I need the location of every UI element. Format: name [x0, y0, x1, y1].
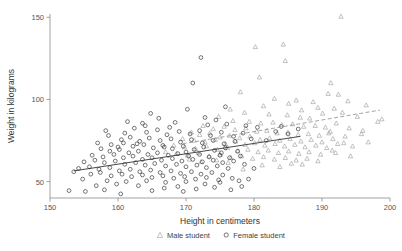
data-point-male: [329, 81, 333, 85]
data-point-female: [90, 153, 94, 157]
data-point-male: [260, 163, 264, 167]
data-point-female: [108, 149, 112, 153]
data-point-male: [327, 131, 331, 135]
data-point-female: [82, 160, 86, 164]
data-point-male: [336, 92, 340, 96]
data-point-female: [157, 116, 161, 120]
data-point-female: [158, 139, 162, 143]
data-point-male: [242, 110, 246, 114]
y-tick-label: 50: [36, 178, 44, 187]
data-point-female: [122, 156, 126, 160]
data-point-male: [257, 75, 261, 79]
data-point-male: [227, 133, 231, 137]
data-point-female: [137, 149, 141, 153]
data-point-female: [109, 143, 113, 147]
data-point-female: [203, 182, 207, 186]
data-point-female: [221, 173, 225, 177]
data-point-female: [221, 161, 225, 165]
data-point-female: [103, 161, 107, 165]
data-point-male: [216, 114, 220, 118]
data-point-female: [169, 137, 173, 141]
data-point-female: [296, 127, 300, 131]
data-point-male: [282, 144, 286, 148]
data-point-male: [296, 132, 300, 136]
x-tick-label: 150: [44, 203, 57, 212]
data-point-male: [305, 156, 309, 160]
data-point-female: [122, 141, 126, 145]
data-point-male: [318, 152, 322, 156]
data-point-female: [168, 125, 172, 129]
data-point-female: [138, 170, 142, 174]
data-point-female: [256, 125, 260, 129]
data-point-female: [199, 172, 203, 176]
data-point-male: [238, 136, 242, 140]
data-point-female: [94, 184, 98, 188]
data-point-male: [259, 121, 263, 125]
data-point-male: [283, 59, 287, 63]
data-point-male: [231, 118, 235, 122]
data-point-female: [153, 162, 157, 166]
data-point-male: [226, 160, 230, 164]
data-point-male: [339, 14, 343, 18]
y-tick-label: 150: [31, 13, 44, 22]
data-point-female: [141, 173, 145, 177]
data-point-female: [191, 81, 195, 85]
data-point-male: [233, 128, 237, 132]
data-point-female: [206, 123, 210, 127]
data-point-female: [67, 189, 71, 193]
data-point-male: [311, 100, 315, 104]
data-point-female: [135, 142, 139, 146]
tick-labels-group: 15016017018019020050100150: [31, 13, 396, 212]
data-point-male: [347, 126, 351, 130]
data-point-female: [132, 126, 136, 130]
data-point-female: [161, 174, 165, 178]
data-point-female: [162, 186, 166, 190]
data-point-male: [364, 103, 368, 107]
data-point-female: [225, 122, 229, 126]
data-point-male: [266, 148, 270, 152]
data-point-female: [105, 179, 109, 183]
data-point-male: [317, 133, 321, 137]
data-point-female: [143, 163, 147, 167]
data-point-male: [314, 143, 318, 147]
data-point-male: [309, 137, 313, 141]
data-point-male: [273, 141, 277, 145]
data-point-female: [164, 164, 168, 168]
chart-svg: 15016017018019020050100150 Male studentF…: [0, 0, 402, 251]
data-point-female: [215, 164, 219, 168]
data-point-female: [128, 135, 132, 139]
data-point-female: [219, 130, 223, 134]
data-point-male: [299, 139, 303, 143]
data-point-male: [228, 107, 232, 111]
data-point-male: [241, 167, 245, 171]
data-point-male: [222, 124, 226, 128]
data-point-female: [104, 129, 108, 133]
data-point-female: [175, 162, 179, 166]
data-point-male: [297, 151, 301, 155]
data-point-male: [293, 142, 297, 146]
data-point-female: [209, 134, 213, 138]
data-point-female: [205, 176, 209, 180]
x-tick-label: 200: [384, 203, 397, 212]
data-point-male: [326, 91, 330, 95]
data-point-female: [190, 170, 194, 174]
y-axis-label: Weight in kilograms: [6, 69, 16, 143]
data-point-female: [115, 182, 119, 186]
data-point-male: [286, 149, 290, 153]
data-point-male: [271, 120, 275, 124]
data-point-female: [249, 137, 253, 141]
data-point-male: [250, 156, 254, 160]
legend-marker-female: [224, 233, 228, 237]
data-point-male: [342, 141, 346, 145]
data-point-female: [230, 176, 234, 180]
data-point-male: [253, 45, 257, 49]
data-point-female: [103, 188, 107, 192]
data-point-female: [131, 144, 135, 148]
data-point-male: [256, 150, 260, 154]
data-point-male: [335, 141, 339, 145]
data-point-female: [240, 185, 244, 189]
data-point-female: [107, 134, 111, 138]
data-point-female: [210, 171, 214, 175]
data-point-female: [137, 184, 141, 188]
data-point-female: [243, 162, 247, 166]
